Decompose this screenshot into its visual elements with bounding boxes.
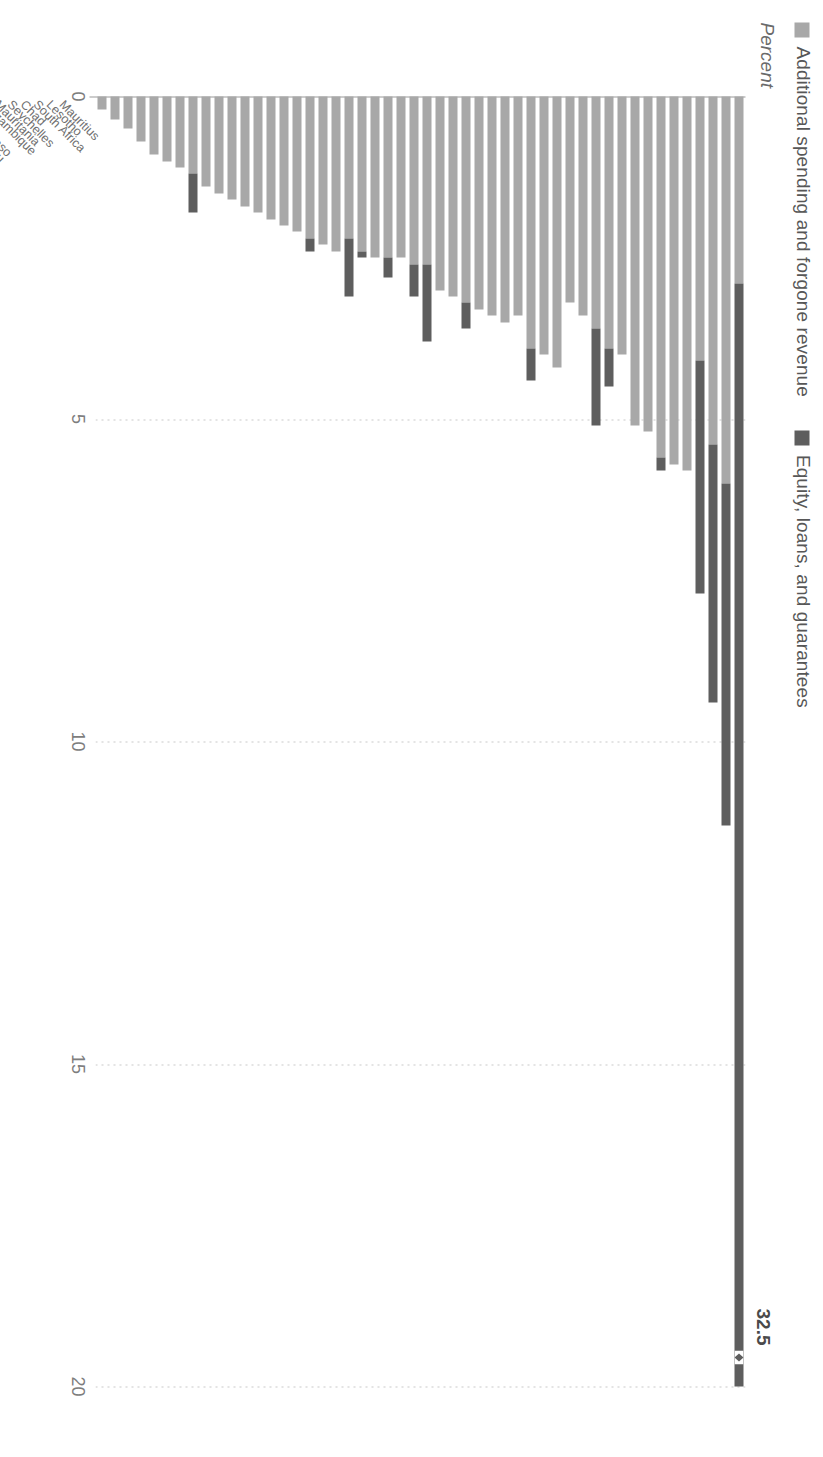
bar-row[interactable] [214,96,223,193]
bar-segment-equity-loans-guarantees[interactable] [409,264,418,296]
bar-row[interactable] [253,96,262,212]
bar-segment-equity-loans-guarantees[interactable] [526,348,535,380]
bar-row[interactable] [708,96,717,702]
bar-segment-additional-spending[interactable] [97,96,106,109]
bar-segment-additional-spending[interactable] [695,96,704,360]
bar-segment-additional-spending[interactable] [162,96,171,161]
bar-segment-equity-loans-guarantees[interactable] [721,483,730,825]
bar-row[interactable] [721,96,730,825]
bar-segment-additional-spending[interactable] [474,96,483,309]
bar-row[interactable] [630,96,639,425]
bar-segment-equity-loans-guarantees[interactable] [344,238,353,296]
bar-segment-equity-loans-guarantees[interactable] [357,251,366,257]
bar-segment-additional-spending[interactable] [123,96,132,128]
bar-row[interactable] [240,96,249,206]
bar-segment-additional-spending[interactable] [513,96,522,315]
bar-segment-additional-spending[interactable] [383,96,392,257]
bar-segment-additional-spending[interactable] [331,96,340,251]
bar-segment-additional-spending[interactable] [396,96,405,257]
bar-segment-additional-spending[interactable] [266,96,275,219]
bar-row[interactable] [344,96,353,296]
bar-segment-additional-spending[interactable] [552,96,561,367]
bar-segment-additional-spending[interactable] [578,96,587,315]
bar-row[interactable] [318,96,327,244]
bar-segment-additional-spending[interactable] [448,96,457,296]
bar-row[interactable] [331,96,340,251]
bar-row[interactable] [123,96,132,128]
bar-segment-additional-spending[interactable] [175,96,184,167]
bar-row[interactable] [552,96,561,367]
bar-row[interactable] [305,96,314,251]
bar-row[interactable] [175,96,184,167]
bar-row[interactable] [617,96,626,354]
bar-segment-additional-spending[interactable] [292,96,301,231]
bar-row[interactable] [656,96,665,470]
bar-segment-additional-spending[interactable] [643,96,652,431]
bar-segment-equity-loans-guarantees[interactable] [422,264,431,341]
bar-segment-additional-spending[interactable] [188,96,197,173]
bar-segment-additional-spending[interactable] [409,96,418,264]
bar-row[interactable] [409,96,418,296]
bar-segment-additional-spending[interactable] [305,96,314,238]
bar-segment-equity-loans-guarantees[interactable] [656,457,665,470]
bar-segment-additional-spending[interactable] [422,96,431,264]
bar-row[interactable] [695,96,704,593]
bar-segment-additional-spending[interactable] [682,96,691,470]
bar-row[interactable] [643,96,652,431]
bar-row[interactable] [487,96,496,315]
bar-segment-additional-spending[interactable] [604,96,613,348]
bar-segment-additional-spending[interactable] [708,96,717,444]
bar-segment-equity-loans-guarantees[interactable] [695,360,704,592]
bar-row[interactable] [669,96,678,464]
bar-row[interactable] [357,96,366,257]
bar-segment-equity-loans-guarantees[interactable] [461,302,470,328]
bar-segment-additional-spending[interactable] [461,96,470,302]
bar-row[interactable] [591,96,600,425]
bar-row[interactable] [149,96,158,154]
bar-row[interactable] [682,96,691,470]
bar-segment-additional-spending[interactable] [630,96,639,425]
bar-row[interactable] [266,96,275,219]
bar-segment-additional-spending[interactable] [721,96,730,483]
bar-row[interactable] [370,96,379,257]
bar-segment-equity-loans-guarantees[interactable] [604,348,613,387]
bar-segment-additional-spending[interactable] [149,96,158,154]
bar-segment-additional-spending[interactable] [136,96,145,141]
bar-row[interactable] [734,96,743,1386]
bar-row[interactable] [513,96,522,315]
bar-segment-additional-spending[interactable] [201,96,210,186]
bar-row[interactable] [227,96,236,199]
bar-segment-additional-spending[interactable] [669,96,678,464]
bar-row[interactable] [604,96,613,386]
bar-segment-additional-spending[interactable] [500,96,509,322]
bar-row[interactable] [526,96,535,380]
bar-segment-additional-spending[interactable] [487,96,496,315]
bar-row[interactable] [500,96,509,322]
bar-segment-additional-spending[interactable] [344,96,353,238]
bar-segment-additional-spending[interactable] [734,96,743,283]
bar-row[interactable] [539,96,548,354]
bar-segment-additional-spending[interactable] [214,96,223,193]
bar-segment-equity-loans-guarantees[interactable] [708,444,717,702]
bar-segment-additional-spending[interactable] [565,96,574,302]
bar-row[interactable] [474,96,483,309]
bar-segment-equity-loans-guarantees[interactable] [188,173,197,212]
bar-segment-additional-spending[interactable] [526,96,535,348]
bar-segment-additional-spending[interactable] [318,96,327,244]
bar-segment-additional-spending[interactable] [240,96,249,206]
bar-segment-equity-loans-guarantees[interactable] [305,238,314,251]
bar-row[interactable] [279,96,288,225]
bar-row[interactable] [396,96,405,257]
bar-segment-equity-loans-guarantees[interactable] [591,328,600,425]
bar-segment-equity-loans-guarantees[interactable] [734,283,743,1386]
bar-row[interactable] [188,96,197,212]
bar-row[interactable] [110,96,119,119]
bar-row[interactable] [292,96,301,231]
bar-row[interactable] [201,96,210,186]
bar-row[interactable] [578,96,587,315]
bar-segment-additional-spending[interactable] [591,96,600,328]
bar-segment-additional-spending[interactable] [110,96,119,119]
bar-segment-additional-spending[interactable] [227,96,236,199]
bar-segment-equity-loans-guarantees[interactable] [383,257,392,276]
bar-segment-additional-spending[interactable] [253,96,262,212]
